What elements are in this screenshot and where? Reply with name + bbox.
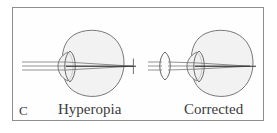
label-hyperopia: Hyperopia bbox=[58, 101, 121, 118]
corrected-eye-diagram bbox=[148, 30, 256, 96]
panel-letter: C bbox=[19, 103, 28, 119]
figure-root: C Hyperopia Corrected bbox=[0, 0, 277, 133]
label-corrected: Corrected bbox=[184, 101, 243, 118]
hyperopia-eye-diagram bbox=[22, 30, 136, 96]
